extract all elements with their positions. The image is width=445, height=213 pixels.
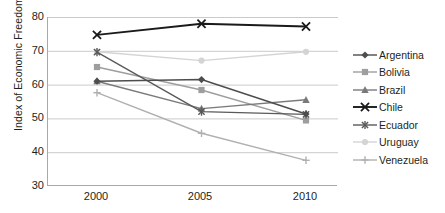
data-point-marker: [198, 58, 204, 64]
data-point-marker: [94, 64, 100, 70]
square-marker-icon: [352, 65, 378, 79]
legend-item-label: Brazil: [378, 85, 405, 96]
data-point-marker: [302, 157, 309, 164]
y-axis-tick-labels: 80 70 60 50 40 30: [0, 0, 44, 213]
triangle-marker-icon: [352, 83, 378, 97]
y-tick-label: 80: [4, 11, 44, 22]
y-tick-label: 30: [4, 180, 44, 191]
legend-item-argentina[interactable]: Argentina: [352, 46, 445, 64]
star-marker-icon: [352, 118, 378, 132]
x-tick-label: 2005: [188, 190, 212, 202]
legend-item-label: Ecuador: [378, 120, 418, 131]
legend-item-brazil[interactable]: Brazil: [352, 81, 445, 99]
plus-marker-icon: [352, 153, 378, 167]
x-tick-label: 2000: [84, 190, 108, 202]
plot-area: [47, 17, 337, 186]
data-point-marker: [362, 139, 368, 145]
x-axis-tick-labels: 2000 2005 2010: [47, 190, 337, 210]
data-point-marker: [361, 51, 368, 58]
circle-marker-icon: [352, 135, 378, 149]
data-point-marker: [303, 49, 309, 55]
y-tick-label: 50: [4, 112, 44, 123]
legend-item-venezuela[interactable]: Venezuela: [352, 151, 445, 169]
legend-item-label: Bolivia: [378, 67, 410, 78]
series-chile: [93, 20, 310, 39]
y-tick-label: 70: [4, 45, 44, 56]
data-point-marker: [362, 69, 368, 75]
legend-item-label: Chile: [378, 102, 403, 113]
data-point-marker: [198, 87, 204, 93]
legend-item-label: Venezuela: [378, 155, 428, 166]
legend-item-uruguay[interactable]: Uruguay: [352, 134, 445, 152]
data-point-marker: [198, 130, 205, 137]
line-chart: Index of Economic Freedom 80 70 60 50 40…: [0, 0, 445, 213]
plot-svg: [48, 17, 338, 186]
data-point-marker: [198, 76, 205, 83]
data-point-marker: [93, 89, 100, 96]
y-tick-label: 60: [4, 79, 44, 90]
legend-item-bolivia[interactable]: Bolivia: [352, 64, 445, 82]
legend-item-label: Argentina: [378, 50, 424, 61]
y-tick-label: 40: [4, 146, 44, 157]
x-tick-label: 2010: [293, 190, 317, 202]
data-point-marker: [361, 156, 368, 163]
legend-item-label: Uruguay: [378, 137, 419, 148]
legend-item-ecuador[interactable]: Ecuador: [352, 116, 445, 134]
legend-item-chile[interactable]: Chile: [352, 99, 445, 117]
x-marker-icon: [352, 100, 378, 114]
legend: ArgentinaBoliviaBrazilChileEcuadorUrugua…: [352, 46, 445, 169]
diamond-marker-icon: [352, 48, 378, 62]
